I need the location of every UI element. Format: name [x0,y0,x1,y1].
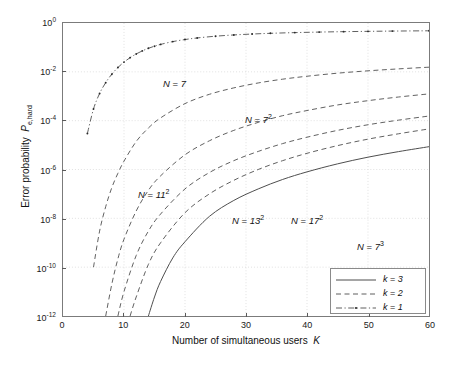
legend: k = 3k = 2k = 1 [330,268,426,314]
x-tick-label: 20 [180,320,190,330]
y-tick-label: 10-12 [37,311,56,323]
data-marker [269,32,271,34]
x-tick-label: 40 [302,320,312,330]
x-tick-label: 60 [425,320,435,330]
y-tick-label: 10-2 [40,65,56,77]
legend-label: k = 1 [383,302,403,312]
data-marker [93,108,95,110]
data-marker [428,30,429,32]
data-marker [391,30,393,32]
legend-line-sample [335,273,377,287]
data-marker [318,31,320,33]
data-marker [105,82,107,84]
curve-annotation-1: N = 72 [245,113,272,125]
x-tick-mark [246,313,247,317]
x-tick-mark [185,313,186,317]
data-marker [367,30,369,32]
data-marker [99,93,101,95]
y-tick-label: 100 [42,16,56,28]
data-marker [294,32,296,34]
data-marker [251,33,253,35]
curve-annotation-3: N = 132 [232,214,264,226]
y-tick-label: 10-6 [40,164,56,176]
legend-entry-1: k = 2 [331,287,427,301]
data-marker [123,61,125,63]
legend-entry-0: k = 3 [331,273,427,287]
x-axis-label: Number of simultaneous users K [62,335,430,346]
curve-annotation-0: N = 7 [163,78,186,89]
data-marker [141,50,143,52]
data-marker [117,67,119,69]
legend-label: k = 2 [383,288,403,298]
y-axis-label: Error probability Pe,hard [20,47,33,267]
y-tick-mark [62,170,66,171]
x-tick-mark [307,313,308,317]
x-tick-mark [123,313,124,317]
x-tick-label: 50 [364,320,374,330]
y-tick-mark [62,219,66,220]
data-marker [196,37,198,39]
curve-annotation-2: N = 112 [138,188,169,200]
series-curve-1 [94,67,429,267]
y-tick-mark [62,120,66,121]
legend-entry-2: k = 1 [331,301,427,315]
y-tick-label: 10-10 [37,262,56,274]
curve-annotation-4: N = 172 [291,214,323,226]
data-marker [129,57,131,59]
curve-annotation-5: N = 73 [357,240,384,252]
data-marker [86,132,88,134]
x-tick-label: 30 [241,320,251,330]
y-tick-mark [62,268,66,269]
x-tick-label: 10 [118,320,128,330]
y-tick-label: 10-8 [40,213,56,225]
data-marker [172,41,174,43]
y-tick-mark [62,71,66,72]
legend-label: k = 3 [383,274,403,284]
data-marker [111,73,113,75]
data-marker [160,43,162,45]
data-marker [343,31,345,33]
y-tick-label: 10-4 [40,114,56,126]
legend-line-sample [335,287,377,301]
data-marker [184,39,186,41]
figure-canvas: 10010-210-410-610-810-1010-12 0102030405… [0,0,455,369]
legend-line-sample [335,301,377,315]
data-marker [233,34,235,36]
data-marker [135,53,137,55]
data-marker [154,45,156,47]
data-marker [147,47,149,49]
data-marker [215,35,217,37]
x-tick-label: 0 [59,320,64,330]
